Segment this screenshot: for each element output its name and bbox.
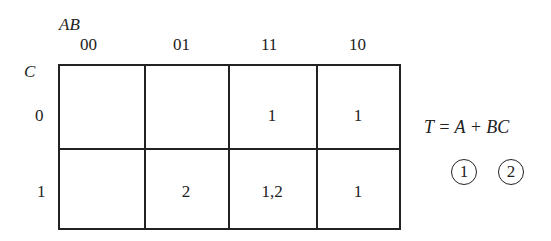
grid-line — [60, 148, 399, 150]
cell-c0-ab11: 1 — [232, 107, 312, 124]
col-header-00: 00 — [80, 36, 97, 53]
kmap-grid: 1 1 2 1,2 1 — [58, 64, 401, 230]
col-header-10: 10 — [349, 36, 366, 53]
grid-line — [144, 66, 146, 228]
col-header-11: 11 — [261, 36, 277, 53]
boolean-expression: T = A + BC — [424, 118, 509, 136]
grid-line — [228, 66, 230, 228]
col-header-01: 01 — [173, 36, 190, 53]
cell-c1-ab01: 2 — [146, 183, 226, 200]
term-label-circle-1: 1 — [451, 159, 477, 185]
row-var-label: C — [24, 63, 35, 80]
cell-c1-ab10: 1 — [318, 183, 398, 200]
term-label-circle-2: 2 — [498, 159, 524, 185]
col-vars-label: AB — [59, 16, 80, 33]
cell-c1-ab11: 1,2 — [232, 183, 312, 200]
row-header-1: 1 — [37, 183, 46, 200]
cell-c0-ab10: 1 — [318, 107, 398, 124]
row-header-0: 0 — [35, 107, 44, 124]
grid-line — [316, 66, 318, 228]
